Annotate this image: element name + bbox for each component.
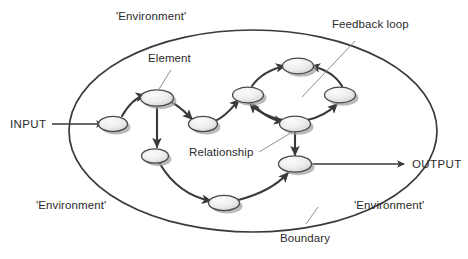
node-loop-right[interactable] <box>325 87 356 103</box>
feedback-loop-label: Feedback loop <box>332 18 409 30</box>
boundary-leader-line <box>306 207 318 224</box>
environment-label-top: 'Environment' <box>116 10 186 22</box>
node-loop-left[interactable] <box>233 87 264 103</box>
edge-mid-to-loop-left <box>215 100 239 121</box>
node-loop-top[interactable] <box>283 58 314 74</box>
relationship-leader-line <box>259 131 294 152</box>
environment-label-bottom-right: 'Environment' <box>354 199 424 211</box>
node-group <box>99 58 359 213</box>
element-label: Element <box>148 52 191 64</box>
node-element-bottom[interactable] <box>209 195 240 210</box>
environment-label-bottom-left: 'Environment' <box>36 199 106 211</box>
diagram-canvas: 'Environment' Feedback loop Element INPU… <box>0 0 468 259</box>
node-loop-bottom[interactable] <box>280 116 311 132</box>
node-element-mid[interactable] <box>189 116 218 131</box>
input-label: INPUT <box>10 118 47 130</box>
relationship-label: Relationship <box>189 146 254 158</box>
boundary-label: Boundary <box>280 232 330 244</box>
systems-diagram <box>0 0 468 259</box>
element-leader-line <box>159 70 171 89</box>
edge-loop-bottom-to-right <box>307 104 337 120</box>
output-label: OUTPUT <box>412 158 462 170</box>
edge-bottom-to-output-node <box>238 173 288 200</box>
edge-lower-to-bottom <box>160 164 211 201</box>
node-element-lower-left[interactable] <box>142 149 169 163</box>
node-input-element[interactable] <box>99 116 128 131</box>
edge-loop-left-to-top <box>252 66 285 86</box>
node-output-element[interactable] <box>279 156 312 172</box>
node-element-top-left[interactable] <box>141 90 174 106</box>
